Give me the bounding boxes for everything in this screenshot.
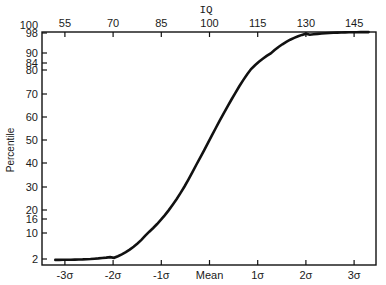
y-axis: 2101620304050607080849098100 bbox=[20, 19, 47, 265]
x-tick-label-top: 70 bbox=[107, 17, 119, 29]
y-tick-label: 60 bbox=[26, 111, 38, 123]
chart-root: 2101620304050607080849098100 -3σ-2σ-1σMe… bbox=[0, 0, 386, 285]
x-tick-label-bottom: 1σ bbox=[251, 269, 264, 281]
y-tick-label: 70 bbox=[26, 88, 38, 100]
y-tick-label: 2 bbox=[32, 253, 38, 265]
cumulative-curve bbox=[55, 32, 368, 260]
x-tick-label-bottom: 3σ bbox=[348, 269, 361, 281]
x-tick-label-top: 145 bbox=[345, 17, 363, 29]
y-tick-label: 30 bbox=[26, 181, 38, 193]
x-tick-label-top: 55 bbox=[59, 17, 71, 29]
y-tick-label: 10 bbox=[26, 227, 38, 239]
y-tick-label: 100 bbox=[20, 19, 38, 31]
plot-frame bbox=[42, 32, 376, 265]
x-tick-label-bottom: 2σ bbox=[299, 269, 312, 281]
x-tick-label-bottom: Mean bbox=[196, 269, 224, 281]
x-tick-label-bottom: -2σ bbox=[105, 269, 122, 281]
x-tick-label-top: 130 bbox=[297, 17, 315, 29]
x-tick-label-top: 100 bbox=[200, 17, 218, 29]
x-tick-label-top: 85 bbox=[155, 17, 167, 29]
top-axis-title: IQ bbox=[199, 4, 213, 16]
x-axis-bottom: -3σ-2σ-1σMean1σ2σ3σ bbox=[57, 260, 361, 281]
x-tick-label-bottom: -1σ bbox=[153, 269, 170, 281]
x-tick-label-bottom: -3σ bbox=[57, 269, 74, 281]
y-tick-label: 90 bbox=[26, 47, 38, 59]
y-tick-label: 20 bbox=[26, 204, 38, 216]
y-tick-label: 50 bbox=[26, 134, 38, 146]
y-tick-label: 40 bbox=[26, 157, 38, 169]
y-axis-title: Percentile bbox=[5, 127, 16, 172]
x-tick-label-top: 115 bbox=[249, 17, 267, 29]
